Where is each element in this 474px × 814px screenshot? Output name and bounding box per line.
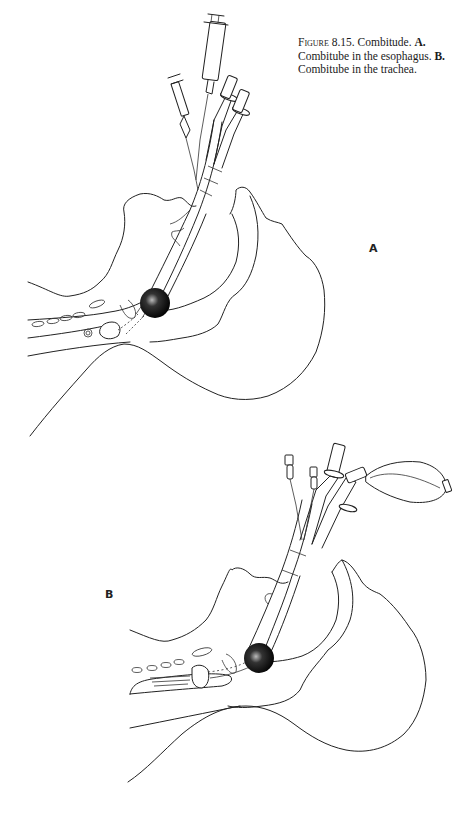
tube-connectors (200, 75, 250, 196)
ventilation-bag (366, 462, 452, 503)
tube-connectors-b (300, 443, 367, 548)
pilot-valves-b (285, 455, 317, 540)
distal-cuff-balloon-b (244, 643, 274, 673)
head-outline-b (128, 560, 426, 782)
panel-label-b: B (105, 588, 113, 601)
distal-cuff-balloon (140, 288, 170, 318)
larynx-b (150, 594, 272, 688)
combitube-tube-b (248, 500, 312, 656)
larynx (84, 210, 190, 339)
vertebrae-b (132, 646, 213, 672)
syringe-small (168, 74, 198, 190)
head-outline (28, 187, 325, 436)
combitube-tube (118, 120, 222, 334)
vertebrae (32, 298, 106, 327)
panel-a-illustration (0, 0, 474, 440)
